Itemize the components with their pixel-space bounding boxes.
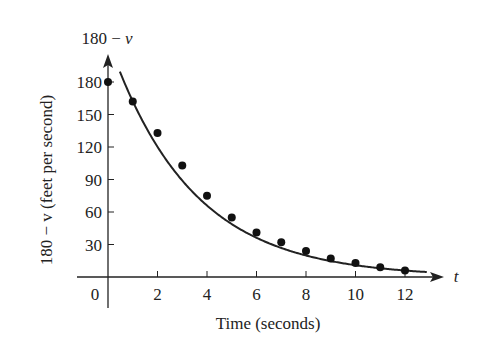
y-tick-label: 60 (85, 203, 102, 222)
y-tick-label: 120 (77, 138, 103, 157)
ticks: 24681012306090120150180 (77, 73, 414, 304)
data-point (327, 255, 335, 263)
data-point (129, 98, 137, 106)
x-tick-label: 12 (397, 285, 414, 304)
data-point (253, 229, 261, 237)
y-tick-label: 90 (85, 171, 102, 190)
x-tick-label: 2 (153, 285, 162, 304)
data-point (178, 161, 186, 169)
data-point (302, 247, 310, 255)
y-tick-label: 30 (85, 236, 102, 255)
chart: 24681012306090120150180 0 180 − v t Time… (0, 0, 491, 353)
data-point (228, 213, 236, 221)
data-point (203, 192, 211, 200)
origin-label: 0 (91, 285, 100, 304)
fit-curve (120, 72, 427, 272)
x-tick-label: 10 (347, 285, 364, 304)
data-point (277, 238, 285, 246)
fit-curve-line (120, 72, 427, 272)
x-axis-end-label: t (454, 267, 460, 286)
x-tick-label: 6 (252, 285, 261, 304)
y-axis-top-label: 180 − v (81, 29, 133, 48)
data-point (376, 263, 384, 271)
x-tick-label: 4 (203, 285, 212, 304)
data-point (104, 78, 112, 86)
x-tick-label: 8 (302, 285, 311, 304)
x-axis-title: Time (seconds) (216, 314, 321, 333)
data-point (401, 267, 409, 275)
data-points (104, 78, 409, 275)
data-point (352, 259, 360, 267)
y-axis-title: 180 − v (feet per second) (37, 95, 56, 266)
data-point (154, 129, 162, 137)
y-tick-label: 150 (77, 106, 103, 125)
y-tick-label: 180 (77, 73, 103, 92)
